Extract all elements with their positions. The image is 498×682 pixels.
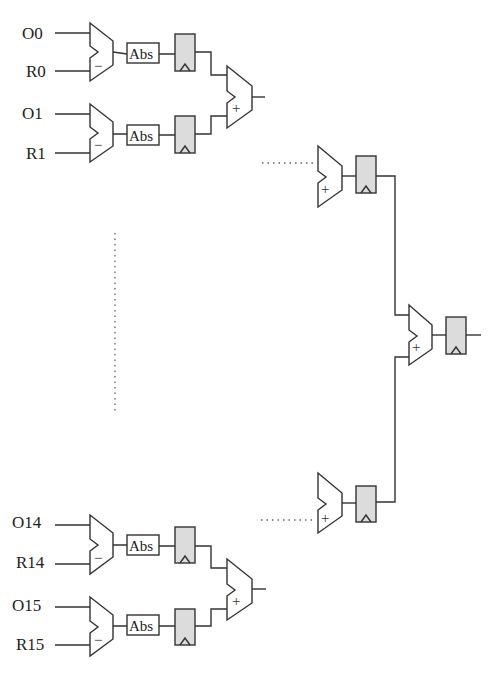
sub-to-abs-wires bbox=[113, 52, 127, 134]
input-label-o0: O0 bbox=[22, 24, 43, 43]
adder-final bbox=[409, 305, 432, 365]
minus-symbol: − bbox=[94, 632, 102, 648]
input-wires-top bbox=[55, 33, 90, 153]
abs-to-reg-wires bbox=[159, 546, 175, 626]
input-label-o14: O14 bbox=[12, 513, 42, 532]
sub-to-abs-wires bbox=[113, 545, 127, 626]
subtractor-1 bbox=[90, 104, 113, 162]
minus-symbol: − bbox=[94, 58, 102, 74]
abs-to-reg-wires bbox=[159, 54, 175, 135]
upper-to-final-wire bbox=[376, 176, 409, 315]
minus-symbol: − bbox=[94, 550, 102, 566]
abs-label: Abs bbox=[129, 538, 153, 554]
input-label-o1: O1 bbox=[22, 104, 43, 123]
lower-to-final-wire bbox=[376, 357, 409, 502]
top-pair-group: O0 R0 O1 R1 − − Abs Abs bbox=[22, 23, 265, 163]
upper-intermediate-stage: + bbox=[262, 146, 409, 315]
plus-symbol: + bbox=[412, 339, 420, 355]
adder-level1-top bbox=[227, 66, 252, 128]
input-label-r15: R15 bbox=[16, 635, 44, 654]
input-label-o15: O15 bbox=[12, 596, 41, 615]
final-stage: + bbox=[409, 305, 481, 365]
abs-label: Abs bbox=[129, 46, 153, 62]
plus-symbol: + bbox=[232, 593, 240, 609]
plus-symbol: + bbox=[321, 510, 329, 526]
minus-symbol: − bbox=[94, 137, 102, 153]
lower-intermediate-stage: + bbox=[261, 357, 409, 533]
register-14 bbox=[175, 527, 195, 563]
input-label-r14: R14 bbox=[16, 553, 45, 572]
register-lower bbox=[356, 486, 376, 522]
sad-adder-tree-diagram: O0 R0 O1 R1 − − Abs Abs bbox=[0, 0, 498, 682]
register-15 bbox=[175, 609, 195, 645]
register-final bbox=[446, 317, 466, 354]
input-label-r0: R0 bbox=[26, 62, 46, 81]
adder-intermediate-upper bbox=[318, 146, 342, 207]
bottom-pair-group: O14 R14 O15 R15 − − Abs Abs + bbox=[12, 513, 266, 656]
abs-label: Abs bbox=[129, 618, 153, 634]
plus-symbol: + bbox=[321, 181, 329, 197]
reg-to-adder-wires bbox=[195, 52, 227, 134]
adder-level1-bottom bbox=[227, 559, 252, 620]
register-upper bbox=[356, 156, 376, 193]
input-label-r1: R1 bbox=[26, 144, 46, 163]
plus-symbol: + bbox=[232, 100, 240, 116]
reg-to-adder-wires bbox=[195, 546, 227, 626]
register-0 bbox=[175, 34, 195, 71]
input-wires-bottom bbox=[55, 525, 90, 645]
abs-label: Abs bbox=[129, 128, 153, 144]
register-1 bbox=[175, 116, 195, 153]
